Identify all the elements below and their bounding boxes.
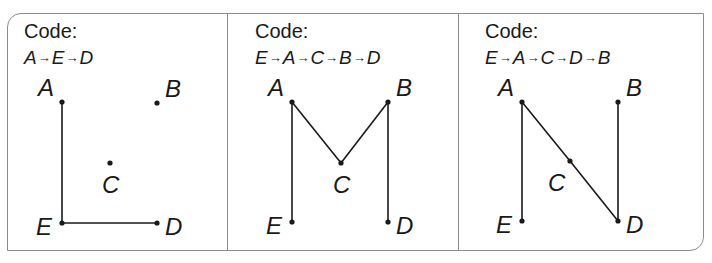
point-a-dot xyxy=(59,99,64,104)
point-d-dot xyxy=(615,218,620,223)
point-b-label: B xyxy=(626,74,642,101)
path-segment-a-c xyxy=(292,102,341,163)
point-e-label: E xyxy=(496,211,513,238)
point-d-label: D xyxy=(165,213,182,240)
point-d-dot xyxy=(385,219,390,224)
path-segment-c-b xyxy=(341,102,388,163)
point-e-dot xyxy=(519,218,524,223)
point-a-label: A xyxy=(36,74,54,101)
point-d-label: D xyxy=(626,211,643,238)
point-b-dot xyxy=(615,99,620,104)
path-segment-c-d xyxy=(570,161,618,221)
point-a-label: A xyxy=(496,74,514,101)
point-c-label: C xyxy=(102,171,120,198)
point-c-label: C xyxy=(548,169,566,196)
point-e-label: E xyxy=(36,213,53,240)
point-c-dot xyxy=(338,160,343,165)
point-b-dot xyxy=(385,99,390,104)
point-e-dot xyxy=(289,219,294,224)
point-b-label: B xyxy=(396,74,412,101)
point-a-dot xyxy=(289,99,294,104)
point-c-label: C xyxy=(333,171,351,198)
point-c-dot xyxy=(107,160,112,165)
path-diagrams: ABCEDABCEDABCED xyxy=(0,0,712,263)
point-c-dot xyxy=(567,158,572,163)
point-b-label: B xyxy=(165,75,181,102)
point-e-dot xyxy=(59,220,64,225)
point-d-label: D xyxy=(396,212,413,239)
point-d-dot xyxy=(154,220,159,225)
point-a-dot xyxy=(519,99,524,104)
point-e-label: E xyxy=(266,212,283,239)
point-b-dot xyxy=(154,100,159,105)
path-segment-a-c xyxy=(522,102,570,161)
point-a-label: A xyxy=(266,74,284,101)
